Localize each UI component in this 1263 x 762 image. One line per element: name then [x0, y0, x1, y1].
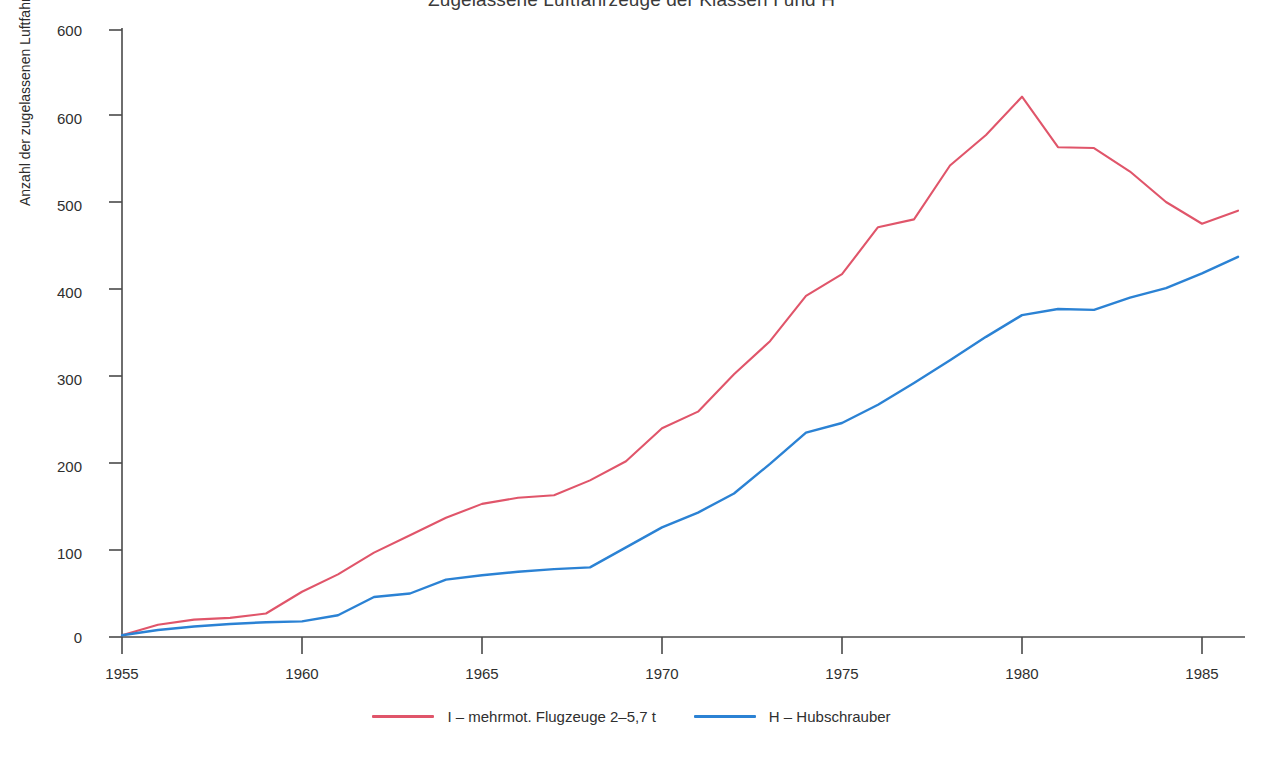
- legend-entry-klasse-i: I – mehrmot. Flugzeuge 2–5,7 t: [372, 708, 655, 725]
- chart-container: Zugelassene Luftfahrzeuge der Klassen I …: [0, 0, 1263, 762]
- legend-label-klasse-i: I – mehrmot. Flugzeuge 2–5,7 t: [447, 708, 655, 725]
- y-tick-marks: [109, 30, 122, 637]
- chart-legend: I – mehrmot. Flugzeuge 2–5,7 t H – Hubsc…: [0, 708, 1263, 725]
- legend-label-klasse-h: H – Hubschrauber: [769, 708, 891, 725]
- x-tick-marks: [122, 637, 1202, 654]
- legend-swatch-red-icon: [372, 715, 434, 718]
- legend-entry-klasse-h: H – Hubschrauber: [694, 708, 891, 725]
- series-line-klasse-h: [122, 257, 1238, 635]
- plot-area: [0, 0, 1263, 762]
- legend-swatch-blue-icon: [694, 715, 756, 718]
- series-line-klasse-i: [122, 97, 1238, 636]
